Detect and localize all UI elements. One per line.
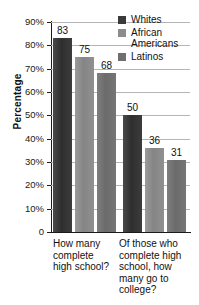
bar	[167, 160, 186, 232]
y-axis-tickmark	[47, 69, 51, 70]
bar	[53, 38, 72, 232]
y-axis-tickmark	[47, 162, 51, 163]
y-axis-tickmark	[47, 209, 51, 210]
x-axis-line	[51, 232, 191, 233]
category-label: How many complete high school?	[53, 238, 115, 273]
y-tick-label: 40%	[10, 134, 44, 144]
bar-value-label: 68	[93, 60, 120, 71]
y-tick-label: 20%	[10, 180, 44, 190]
y-axis-tickmark	[47, 115, 51, 116]
bar-chart: Percentage 90% 80% 70% 60% 50% 40% 30% 2…	[0, 0, 199, 305]
bar	[75, 57, 94, 232]
y-axis-tickmark	[47, 139, 51, 140]
legend-item-whites: Whites	[118, 14, 198, 25]
bar-value-label: 75	[71, 44, 98, 55]
bar-value-label: 83	[49, 25, 76, 36]
legend: Whites African Americans Latinos	[118, 14, 198, 64]
legend-item-african-americans: African Americans	[118, 27, 198, 49]
bar-value-label: 36	[141, 135, 168, 146]
category-label: Of those who complete high school, how m…	[119, 238, 199, 296]
latinos-swatch-icon	[118, 53, 126, 61]
y-tick-label: 90%	[10, 17, 44, 27]
y-tick-label: 30%	[10, 157, 44, 167]
y-tick-label: 80%	[10, 40, 44, 50]
bar	[97, 73, 116, 232]
y-axis-tickmark	[47, 185, 51, 186]
whites-swatch-icon	[118, 16, 126, 24]
y-axis-tickmark	[47, 232, 51, 233]
legend-label: Latinos	[131, 51, 163, 62]
legend-label: African Americans	[131, 27, 198, 49]
bar	[123, 115, 142, 232]
y-tick-label: 50%	[10, 110, 44, 120]
x-axis-category-labels: How many complete high school? Of those …	[0, 238, 199, 305]
legend-label: Whites	[131, 14, 162, 25]
y-tick-label: 70%	[10, 64, 44, 74]
african-americans-swatch-icon	[118, 29, 126, 37]
legend-item-latinos: Latinos	[118, 51, 198, 62]
y-tick-label: 60%	[10, 87, 44, 97]
y-tick-label: 10%	[10, 204, 44, 214]
y-axis-tickmark	[47, 92, 51, 93]
y-axis-tickmark	[47, 45, 51, 46]
y-axis-tickmark	[47, 22, 51, 23]
bar-value-label: 50	[119, 102, 146, 113]
bar	[145, 148, 164, 232]
bar-value-label: 31	[163, 147, 190, 158]
y-tick-label: 0	[10, 227, 44, 237]
